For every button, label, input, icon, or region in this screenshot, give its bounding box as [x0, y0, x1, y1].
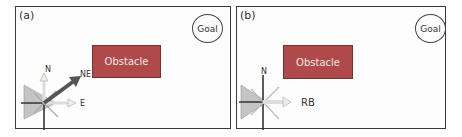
panel-a: (a) Goal Obstacle N NE E	[15, 6, 231, 129]
compass-n-label: N	[45, 65, 51, 74]
compass-n-label: N	[261, 67, 267, 76]
action-rb-label: RB	[301, 97, 315, 108]
compass-ne-label: NE	[80, 70, 91, 79]
panel-b: (b) Goal Obstacle N RB	[236, 6, 446, 129]
compass-icon	[237, 7, 447, 130]
compass-e-label: E	[80, 99, 85, 108]
